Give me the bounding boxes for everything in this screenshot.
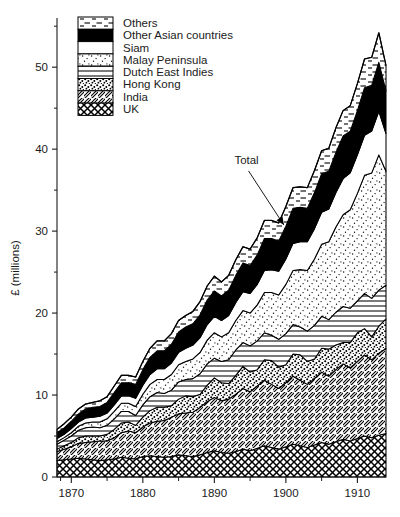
- legend-swatch-malay-peninsula: [78, 54, 113, 66]
- y-tick-label: 0: [42, 471, 48, 483]
- legend-swatch-uk: [78, 103, 113, 115]
- y-tick-label: 30: [35, 225, 48, 237]
- y-axis-title: £ (millions): [9, 240, 21, 296]
- legend-swatch-other-asian-countries: [78, 29, 113, 41]
- y-tick-label: 10: [35, 389, 48, 401]
- legend-label-others: Others: [123, 17, 158, 29]
- chart-canvas: 18701880189019001910 01020304050 £ (mill…: [0, 0, 400, 517]
- legend-swatch-india: [78, 91, 113, 103]
- legend-label-uk: UK: [123, 103, 139, 115]
- legend-label-malay-peninsula: Malay Peninsula: [123, 54, 208, 66]
- legend-swatch-others: [78, 17, 113, 29]
- stacked-area-chart: 18701880189019001910 01020304050 £ (mill…: [0, 0, 400, 517]
- annotation-total-label: Total: [234, 154, 258, 166]
- legend-label-siam: Siam: [123, 42, 149, 54]
- y-tick-label: 40: [35, 143, 48, 155]
- x-tick-label: 1900: [273, 487, 299, 499]
- legend-swatch-dutch-east-indies: [78, 66, 113, 78]
- x-tick-label: 1890: [202, 487, 228, 499]
- x-tick-label: 1910: [345, 487, 371, 499]
- legend-label-other-asian-countries: Other Asian countries: [123, 29, 233, 41]
- y-tick-label: 20: [35, 307, 48, 319]
- legend-label-hong-kong: Hong Kong: [123, 78, 181, 90]
- legend-swatch-hong-kong: [78, 79, 113, 91]
- legend-label-india: India: [123, 91, 149, 103]
- legend-label-dutch-east-indies: Dutch East Indies: [123, 66, 213, 78]
- legend-swatch-siam: [78, 42, 113, 54]
- x-tick-label: 1880: [130, 487, 156, 499]
- x-tick-label: 1870: [59, 487, 85, 499]
- y-tick-label: 50: [35, 61, 48, 73]
